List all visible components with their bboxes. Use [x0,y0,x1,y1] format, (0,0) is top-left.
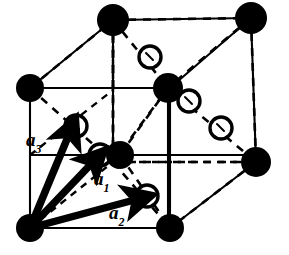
vector-label-a1-base: a [94,168,104,189]
corner-front-bottom-right [156,214,184,242]
corner-back-top-right [235,2,267,34]
face-centre-front [106,141,134,169]
vector-label-a1-subscript: 1 [104,181,110,195]
face-centre-top [153,73,183,103]
vector-label-a2-base: a [109,202,119,223]
vector-label-a2: a2 [109,203,125,225]
vector-label-a1: a1 [94,169,110,191]
vector-label-a2-subscript: 2 [119,215,125,229]
corner-back-bottom-right [241,147,271,177]
corner-back-top-left [97,4,129,36]
corner-front-top-left [16,74,44,102]
crystal-lattice-figure: a3 a1 a2 [0,0,289,255]
open-basis-atoms [65,46,232,207]
vector-label-a3-subscript: 3 [36,142,42,156]
lattice-diagram-svg [0,0,289,255]
vector-label-a3: a3 [26,130,42,152]
vector-label-a3-base: a [26,129,36,150]
